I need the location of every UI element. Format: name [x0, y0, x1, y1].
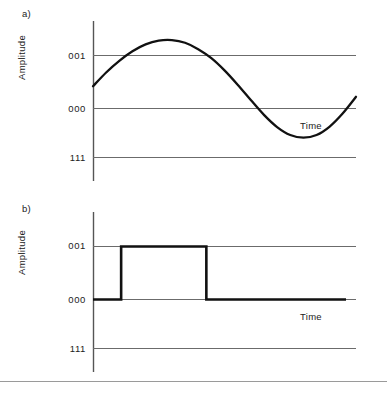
panel-a-sine-curve — [93, 40, 356, 138]
figure-container: a) Amplitude 001 000 111 Time b) Amplitu… — [0, 0, 387, 394]
panel-b-square-wave — [93, 247, 346, 300]
panel-b-plot — [0, 195, 387, 385]
panel-a: a) Amplitude 001 000 111 Time — [0, 0, 387, 190]
bottom-divider — [0, 381, 387, 382]
panel-b: b) Amplitude 001 000 111 Time — [0, 195, 387, 385]
panel-a-plot — [0, 0, 387, 190]
